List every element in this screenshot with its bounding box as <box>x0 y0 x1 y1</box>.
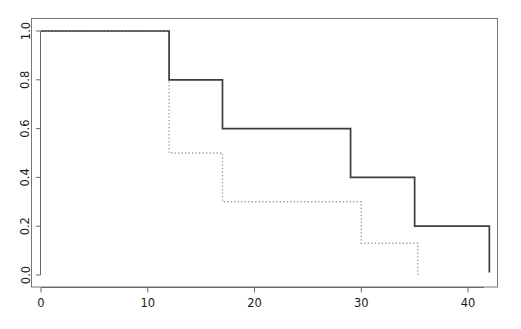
y-tick-label-0.8: 0.8 <box>19 71 33 89</box>
chart-canvas: 1.0 0.8 0.6 0.4 0.2 0.0 0 10 20 30 40 <box>0 0 521 329</box>
y-tick-label-0.6: 0.6 <box>19 119 33 137</box>
series-group <box>41 31 489 275</box>
survival-curve-chart: 1.0 0.8 0.6 0.4 0.2 0.0 0 10 20 30 40 <box>0 0 521 329</box>
solid-curve-line <box>41 31 489 273</box>
x-tick-label-20: 20 <box>247 296 262 310</box>
x-tick-label-30: 30 <box>354 296 369 310</box>
x-tick-label-10: 10 <box>140 296 155 310</box>
x-tick-label-0: 0 <box>37 296 44 310</box>
plot-frame-box <box>32 19 498 288</box>
x-axis: 0 10 20 30 40 <box>37 288 484 311</box>
y-axis: 1.0 0.8 0.6 0.4 0.2 0.0 <box>19 22 41 284</box>
y-tick-label-0.4: 0.4 <box>19 168 33 186</box>
dotted-curve-line <box>41 31 418 275</box>
y-tick-label-0.2: 0.2 <box>19 217 33 235</box>
y-tick-label-1.0: 1.0 <box>19 22 33 40</box>
y-tick-label-0.0: 0.0 <box>19 266 33 284</box>
x-tick-label-40: 40 <box>461 296 476 310</box>
